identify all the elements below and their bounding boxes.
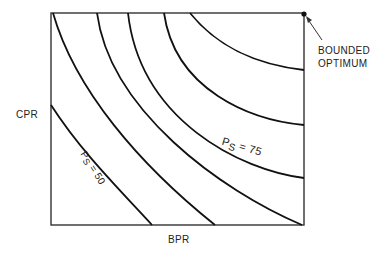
x-axis-label: BPR: [168, 234, 189, 245]
contour-ps-50: [51, 105, 152, 225]
bounded-optimum-label: BOUNDED OPTIMUM: [318, 44, 370, 70]
contour-5: [164, 13, 304, 125]
optimum-point: [301, 11, 306, 16]
y-axis-label: CPR: [16, 109, 38, 120]
arrow-head-icon: [306, 16, 312, 23]
contour-6: [190, 13, 304, 70]
contour-plot: [0, 0, 386, 259]
